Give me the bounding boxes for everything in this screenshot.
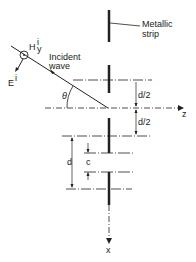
x-axis-arrow [106,238,112,244]
metallic-strip-label: Metallic [142,19,173,29]
e-field-sup: i [15,73,17,83]
d-half-top-label: d/2 [138,90,151,100]
h-field-label: H [29,42,36,52]
metallic-strip-leader [110,23,140,26]
h-field-sub: y [37,44,42,54]
metallic-strip-label-2: strip [142,29,159,39]
x-axis-label: x [106,245,111,255]
arrow-head [135,131,138,135]
arrow-head [87,172,90,176]
theta-arc [67,86,73,108]
incident-wave-label-2: wave [48,61,70,71]
e-field-label: E [8,78,14,88]
arrow-head [135,109,138,113]
arrow-head [87,149,90,153]
c-label: c [86,157,91,167]
strip-grating-diagram: Metallic strip Incident wave H i y E i θ… [0,0,196,262]
theta-label: θ [62,91,67,101]
z-axis-label: z [182,109,187,119]
d-half-bottom-label: d/2 [138,117,151,127]
d-label: d [67,157,72,167]
arrow-head [135,103,138,107]
h-field-dot [23,54,25,56]
arrow-head [71,137,74,141]
arrow-head [71,184,74,188]
